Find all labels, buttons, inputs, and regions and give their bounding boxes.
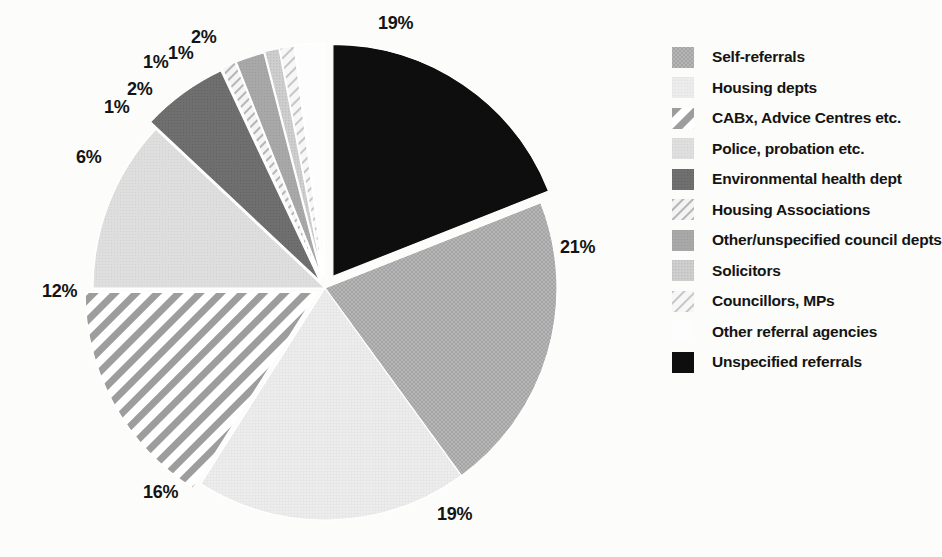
legend-swatch-icon — [672, 291, 694, 312]
pie-percent-label-self-referrals: 21% — [560, 238, 595, 256]
legend-swatch-icon — [672, 199, 694, 220]
legend-item[interactable]: Other referral agencies — [672, 317, 934, 348]
pie-percent-label-other-referral-agencies: 2% — [191, 28, 216, 46]
legend-item-label: Housing depts — [712, 79, 817, 97]
legend-item[interactable]: Other/unspecified council depts — [672, 225, 934, 256]
pie-percent-label-housing-associations: 1% — [104, 98, 129, 116]
legend-item-label: Councillors, MPs — [712, 292, 835, 310]
legend-item[interactable]: Unspecified referrals — [672, 347, 934, 378]
legend-item-label: Self-referrals — [712, 48, 805, 66]
legend-item[interactable]: Housing Associations — [672, 195, 934, 226]
pie-percent-label-environmental-health: 6% — [76, 148, 101, 166]
legend-item-label: Solicitors — [712, 262, 781, 280]
legend-item[interactable]: Police, probation etc. — [672, 134, 934, 165]
chart-legend: Self-referralsHousing deptsCABx, Advice … — [672, 42, 934, 378]
legend-item-label: Environmental health dept — [712, 170, 902, 188]
pie-percent-label-cabx-advice-centres: 16% — [143, 483, 178, 501]
pie-percent-label-unspecified-referrals: 19% — [378, 14, 413, 32]
legend-item-label: CABx, Advice Centres etc. — [712, 109, 901, 127]
pie-slices — [85, 43, 557, 520]
legend-swatch-icon — [672, 321, 694, 342]
pie-percent-label-housing-depts: 19% — [437, 505, 472, 523]
legend-item-label: Other referral agencies — [712, 323, 877, 341]
legend-swatch-icon — [672, 138, 694, 159]
legend-item[interactable]: CABx, Advice Centres etc. — [672, 103, 934, 134]
pie-percent-label-other-council-depts: 2% — [127, 80, 152, 98]
legend-item-label: Police, probation etc. — [712, 140, 864, 158]
pie-percent-label-police-probation: 12% — [42, 282, 77, 300]
legend-item[interactable]: Environmental health dept — [672, 164, 934, 195]
legend-swatch-icon — [672, 108, 694, 129]
legend-swatch-icon — [672, 47, 694, 68]
legend-item[interactable]: Housing depts — [672, 73, 934, 104]
pie-percent-label-solicitors: 1% — [143, 53, 168, 71]
legend-item[interactable]: Self-referrals — [672, 42, 934, 73]
pie-chart-area: 19%21%19%16%12%6%1%2%1%1%2% — [0, 0, 660, 557]
legend-swatch-icon — [672, 352, 694, 373]
legend-swatch-icon — [672, 260, 694, 281]
pie-percent-label-councillors-mps: 1% — [168, 44, 193, 62]
pie-chart-svg — [0, 0, 660, 557]
legend-item-label: Housing Associations — [712, 201, 870, 219]
legend-item[interactable]: Solicitors — [672, 256, 934, 287]
legend-swatch-icon — [672, 77, 694, 98]
legend-item-label: Other/unspecified council depts — [712, 231, 942, 249]
legend-swatch-icon — [672, 230, 694, 251]
legend-item-label: Unspecified referrals — [712, 353, 862, 371]
legend-item[interactable]: Councillors, MPs — [672, 286, 934, 317]
legend-swatch-icon — [672, 169, 694, 190]
